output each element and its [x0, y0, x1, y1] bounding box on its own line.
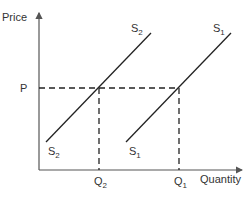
price-label-p: P	[20, 82, 27, 94]
s1-bottom-label: S1	[129, 145, 141, 160]
q1-label: Q1	[174, 175, 188, 190]
y-axis-label: Price	[2, 11, 27, 23]
s1-top-label: S1	[213, 22, 225, 37]
q2-label: Q2	[94, 175, 108, 190]
supply-shift-diagram: Price Quantity P S2 S1 S2 S1 Q2 Q1	[0, 0, 252, 197]
x-axis-label: Quantity	[200, 173, 241, 185]
s2-bottom-label: S2	[48, 145, 60, 160]
s2-top-label: S2	[131, 22, 143, 37]
